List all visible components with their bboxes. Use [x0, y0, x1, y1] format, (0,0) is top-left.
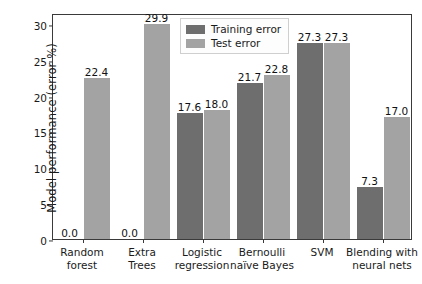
bar-value-label: 27.3	[325, 31, 348, 43]
y-tick-mark	[49, 97, 53, 98]
bar-test	[144, 24, 170, 239]
x-axis-label-line: naïve Bayes	[212, 259, 312, 272]
bar-test	[384, 117, 410, 239]
chart-legend: Training error Test error	[180, 18, 289, 54]
y-tick-mark	[49, 61, 53, 62]
x-axis-label-line: neural nets	[332, 259, 422, 272]
y-tick-mark	[49, 25, 53, 26]
legend-label-training: Training error	[211, 23, 281, 35]
bar-value-label: 29.9	[145, 12, 168, 24]
bar-chart-figure: Model performance (error %) 051015202530…	[0, 0, 422, 284]
bar-group: 0.022.4	[57, 15, 110, 239]
plot-area: Model performance (error %) 051015202530…	[52, 14, 412, 240]
bar-value-label: 18.0	[205, 98, 228, 110]
bar-value-label: 22.8	[265, 63, 288, 75]
x-tick-mark	[203, 239, 204, 243]
bar-train	[177, 113, 203, 239]
bar-value-label: 17.0	[385, 105, 408, 117]
bar-value-label: 0.0	[121, 227, 138, 239]
bar-train	[237, 83, 263, 239]
bar-group: 7.317.0	[357, 15, 410, 239]
bar-value-label: 0.0	[61, 227, 78, 239]
x-tick-mark	[143, 239, 144, 243]
bar-value-label: 21.7	[238, 71, 261, 83]
y-tick-label: 15	[34, 127, 47, 139]
bar-group: 0.029.9	[117, 15, 170, 239]
bar-value-label: 7.3	[361, 175, 378, 187]
bar-test	[324, 43, 350, 239]
bar-test	[264, 75, 290, 239]
legend-swatch-test-icon	[186, 39, 205, 48]
bar-test	[84, 78, 110, 239]
y-tick-mark	[49, 133, 53, 134]
bar-group: 27.327.3	[297, 15, 350, 239]
bar-test	[204, 110, 230, 239]
legend-swatch-training-icon	[186, 25, 205, 34]
x-axis-label: Blending withneural nets	[332, 246, 422, 271]
bar-value-label: 22.4	[85, 66, 108, 78]
x-tick-mark	[383, 239, 384, 243]
bar-train	[297, 43, 323, 239]
y-tick-label: 5	[40, 199, 47, 211]
y-tick-label: 30	[34, 20, 47, 32]
y-tick-label: 10	[34, 163, 47, 175]
y-tick-mark	[49, 205, 53, 206]
legend-entry-training: Training error	[186, 23, 281, 35]
x-tick-mark	[263, 239, 264, 243]
bar-value-label: 27.3	[298, 31, 321, 43]
bar-train	[357, 187, 383, 239]
x-tick-mark	[323, 239, 324, 243]
y-tick-label: 20	[34, 92, 47, 104]
y-tick-mark	[49, 240, 53, 241]
legend-entry-test: Test error	[186, 37, 281, 49]
legend-label-test: Test error	[211, 37, 260, 49]
y-tick-mark	[49, 169, 53, 170]
y-tick-label: 25	[34, 56, 47, 68]
x-tick-mark	[83, 239, 84, 243]
bar-value-label: 17.6	[178, 101, 201, 113]
x-axis-label-line: Blending with	[332, 246, 422, 259]
